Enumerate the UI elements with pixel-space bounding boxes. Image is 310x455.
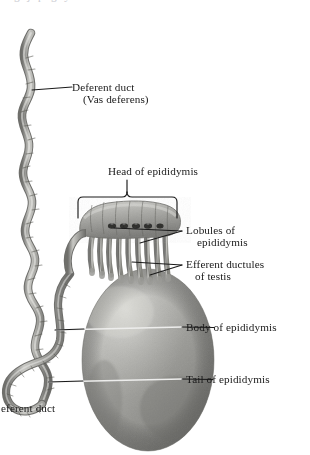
label-deferent-duct-lower-clipped: eferent duct [1,402,55,414]
label-lobules-line2: epididymis [186,236,248,248]
label-tail-of-epididymis: Tail of epididymis [186,373,270,385]
label-deferent-duct-line2: (Vas deferens) [72,93,149,105]
anatomy-figure-testis-epididymis: g j p g y [0,0,310,455]
label-body-of-epididymis: Body of epididymis [186,321,277,333]
label-efferent-line1: Efferent ductules [186,258,264,270]
duct-head-junction [68,233,86,274]
label-lobules-line1: Lobules of [186,224,235,236]
anatomical-illustration [0,0,310,455]
testis-body [80,268,220,454]
label-deferent-duct-line1: Deferent duct [72,81,135,93]
label-tail-line1: Tail of epididymis [186,373,270,385]
label-head-of-epididymis-line1: Head of epididymis [108,165,198,177]
leader-deferent-duct [32,87,72,90]
label-deferent-duct: Deferent duct (Vas deferens) [72,81,149,106]
label-efferent-line2: of testis [186,270,264,282]
head-of-epididymis [80,201,181,238]
label-head-of-epididymis: Head of epididymis [108,165,198,177]
label-body-line1: Body of epididymis [186,321,277,333]
label-lobules-of-epididymis: Lobules of epididymis [186,224,248,249]
label-efferent-ductules: Efferent ductules of testis [186,258,264,283]
label-deferent-duct-lower-line1: eferent duct [1,402,55,414]
